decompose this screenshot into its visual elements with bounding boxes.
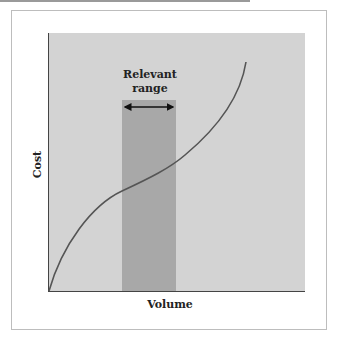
- cost-curve: [49, 62, 246, 291]
- x-axis-label: Volume: [130, 298, 210, 311]
- annotation-line-2: range: [112, 82, 188, 96]
- y-axis-label: Cost: [31, 142, 44, 188]
- annotation-line-1: Relevant: [112, 68, 188, 82]
- annotation-label: Relevant range: [112, 68, 188, 96]
- chart-overlay: [0, 0, 338, 348]
